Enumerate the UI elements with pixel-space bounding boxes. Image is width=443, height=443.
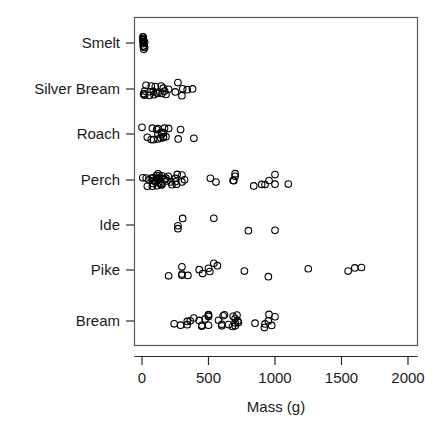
category-label-smelt: Smelt <box>82 34 121 51</box>
figure-background <box>0 0 443 443</box>
chart-figure: SmeltSilver BreamRoachPerchIdePikeBream … <box>0 0 443 443</box>
x-tick-label: 2000 <box>391 369 424 386</box>
category-label-perch: Perch <box>81 171 120 188</box>
series-smelt <box>140 34 148 53</box>
category-label-pike: Pike <box>91 261 120 278</box>
x-tick-label: 1000 <box>258 369 291 386</box>
category-label-ide: Ide <box>99 216 120 233</box>
x-tick-label: 0 <box>138 369 146 386</box>
x-tick-label: 500 <box>196 369 221 386</box>
category-label-bream: Bream <box>76 312 120 329</box>
x-tick-label: 1500 <box>325 369 358 386</box>
stripchart-svg: SmeltSilver BreamRoachPerchIdePikeBream … <box>0 0 443 443</box>
category-label-silver-bream: Silver Bream <box>34 80 120 97</box>
x-axis-title: Mass (g) <box>247 398 305 415</box>
category-label-roach: Roach <box>77 125 120 142</box>
